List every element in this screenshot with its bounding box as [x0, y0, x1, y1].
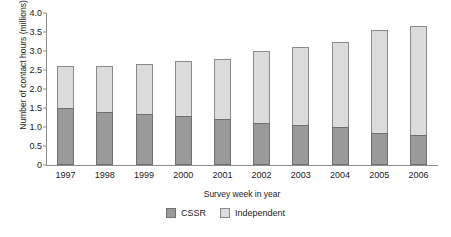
stacked-bar[interactable] — [253, 51, 270, 165]
bar-slot — [242, 13, 281, 165]
bar-segment-cssr[interactable] — [253, 123, 270, 165]
bar-segment-independent[interactable] — [292, 47, 309, 125]
stacked-bar[interactable] — [214, 59, 231, 165]
y-tick-label: 0.5 — [29, 141, 42, 151]
bar-segment-cssr[interactable] — [57, 108, 74, 165]
chart-figure: Number of contact hours (millions) 00.51… — [0, 0, 451, 237]
bar-slot — [320, 13, 359, 165]
bar-segment-cssr[interactable] — [410, 135, 427, 165]
bar-segment-independent[interactable] — [371, 30, 388, 133]
bar-segment-cssr[interactable] — [96, 112, 113, 165]
legend-item[interactable]: CSSR — [166, 208, 206, 218]
stacked-bar[interactable] — [136, 64, 153, 165]
legend-swatch-cssr — [166, 208, 176, 218]
x-tick-label: 2002 — [242, 170, 281, 180]
bar-segment-independent[interactable] — [96, 66, 113, 112]
bar-segment-independent[interactable] — [253, 51, 270, 123]
stacked-bar[interactable] — [371, 30, 388, 165]
chart-legend: CSSRIndependent — [0, 208, 451, 218]
bar-segment-cssr[interactable] — [292, 125, 309, 165]
stacked-bar[interactable] — [410, 26, 427, 165]
x-axis-title: Survey week in year — [46, 189, 438, 199]
bar-slot — [203, 13, 242, 165]
y-tick-label: 2.0 — [29, 84, 42, 94]
bar-segment-independent[interactable] — [175, 61, 192, 116]
x-tick-label: 2003 — [281, 170, 320, 180]
x-tick-label: 2006 — [399, 170, 438, 180]
y-tick-label: 1.0 — [29, 122, 42, 132]
y-tick-label: 3.5 — [29, 27, 42, 37]
stacked-bar[interactable] — [332, 42, 349, 166]
bar-segment-cssr[interactable] — [175, 116, 192, 165]
bar-segment-cssr[interactable] — [136, 114, 153, 165]
x-axis-line — [46, 165, 438, 166]
bar-slot — [360, 13, 399, 165]
stacked-bar[interactable] — [292, 47, 309, 165]
legend-item[interactable]: Independent — [220, 208, 285, 218]
bar-slot — [399, 13, 438, 165]
legend-swatch-independent — [220, 208, 230, 218]
stacked-bar[interactable] — [57, 66, 74, 165]
x-tick-label: 1999 — [124, 170, 163, 180]
bar-slot — [46, 13, 85, 165]
y-tick-label: 3.0 — [29, 46, 42, 56]
legend-label: CSSR — [181, 208, 206, 218]
y-tick-label: 2.5 — [29, 65, 42, 75]
bar-segment-independent[interactable] — [410, 26, 427, 134]
bar-segment-independent[interactable] — [214, 59, 231, 120]
bar-segment-cssr[interactable] — [214, 119, 231, 165]
stacked-bar[interactable] — [96, 66, 113, 165]
bar-segment-independent[interactable] — [332, 42, 349, 128]
bar-group — [46, 13, 438, 165]
bar-segment-independent[interactable] — [57, 66, 74, 108]
y-tick-label: 4.0 — [29, 8, 42, 18]
x-tick-label: 2000 — [164, 170, 203, 180]
x-tick-label: 2001 — [203, 170, 242, 180]
bar-segment-cssr[interactable] — [371, 133, 388, 165]
bar-segment-independent[interactable] — [136, 64, 153, 113]
y-axis-title: Number of contact hours (millions) — [18, 0, 28, 150]
x-tick-label: 2004 — [320, 170, 359, 180]
bar-slot — [281, 13, 320, 165]
y-tick-label: 0 — [37, 160, 42, 170]
legend-label: Independent — [235, 208, 285, 218]
x-axis-ticks: 1997199819992000200120022003200420052006 — [46, 170, 438, 180]
bar-slot — [164, 13, 203, 165]
x-tick-label: 1998 — [85, 170, 124, 180]
bar-segment-cssr[interactable] — [332, 127, 349, 165]
x-tick-label: 1997 — [46, 170, 85, 180]
bar-slot — [85, 13, 124, 165]
bar-slot — [124, 13, 163, 165]
y-tick-label: 1.5 — [29, 103, 42, 113]
stacked-bar[interactable] — [175, 61, 192, 166]
x-tick-label: 2005 — [360, 170, 399, 180]
